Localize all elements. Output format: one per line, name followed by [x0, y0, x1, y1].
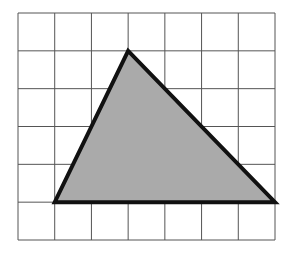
grid-diagram [0, 0, 291, 255]
